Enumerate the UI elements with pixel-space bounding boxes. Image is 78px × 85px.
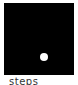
display-panel [4,3,74,75]
caption-label: steps [9,77,38,85]
dot-marker [40,53,48,61]
